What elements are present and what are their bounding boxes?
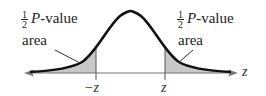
left-pvalue-label: 1 2 P-value [21,10,78,29]
half-fraction: 1 2 [21,10,28,29]
pos-z-tick-label: z [161,80,166,96]
right-pvalue-label: 1 2 P-value [177,10,234,29]
right-area-label: area [178,33,203,48]
left-pointer-line [55,50,80,63]
left-area-label: area [22,33,47,48]
right-pointer-line [178,50,193,63]
half-fraction: 1 2 [177,10,184,29]
z-axis-label: z [242,64,247,80]
neg-z-tick-label: −z [84,80,99,96]
